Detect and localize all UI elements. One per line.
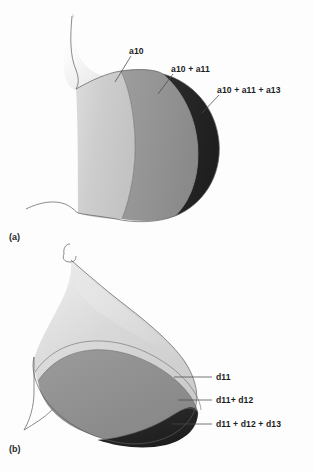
panel-a: a10 a10 + a11 a10 + a11 + a13 (a) xyxy=(9,14,281,242)
panel-a-lower-tail-curve xyxy=(26,202,78,213)
panel-b-upper-tail-curve xyxy=(63,254,76,262)
panel-a-band-light xyxy=(76,71,135,219)
figure-root: a10 a10 + a11 a10 + a11 + a13 (a) xyxy=(0,0,313,472)
label-d11-d12-d13: d11 + d12 + d13 xyxy=(216,419,281,429)
label-d11-d12: d11+ d12 xyxy=(216,395,253,405)
panel-b: d11 d11+ d12 d11 + d12 + d13 (b) xyxy=(9,244,281,454)
panel-tag-a: (a) xyxy=(9,232,20,242)
label-d11: d11 xyxy=(216,372,231,382)
label-a10-a11: a10 + a11 xyxy=(171,64,210,74)
label-a10-a11-a13: a10 + a11 + a13 xyxy=(217,85,281,95)
label-a10: a10 xyxy=(129,46,144,56)
panel-b-lower-tip-curve xyxy=(24,357,34,430)
panel-tag-b: (b) xyxy=(9,444,21,454)
figure-canvas: a10 a10 + a11 a10 + a11 + a13 (a) xyxy=(0,0,313,472)
panel-b-tip-edge xyxy=(24,410,52,430)
panel-b-tail-stem xyxy=(64,244,70,254)
